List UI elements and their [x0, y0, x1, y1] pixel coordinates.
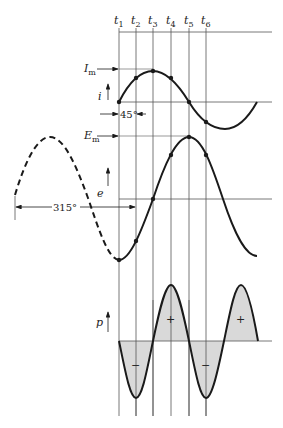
voltage-peak-label: Em [83, 129, 100, 144]
phase-45-label: 45° [120, 109, 138, 120]
voltage-section: Em e 315° [15, 129, 272, 262]
time-label-t6: t6 [201, 14, 211, 29]
power-axis-label: p [96, 316, 103, 329]
power-positive-sign-1: + [166, 313, 175, 326]
voltage-sample-points [117, 135, 208, 262]
time-labels: t1 t2 t3 t4 t5 t6 [114, 14, 211, 29]
current-peak-label: Im [83, 62, 96, 77]
voltage-axis-label: e [97, 187, 104, 200]
time-label-t4: t4 [166, 14, 176, 29]
waveform-diagram: t1 t2 t3 t4 t5 t6 Im i 45° [0, 0, 283, 428]
current-axis-label: i [98, 90, 102, 103]
time-label-t5: t5 [184, 14, 194, 29]
voltage-waveform [119, 137, 257, 260]
time-label-t1: t1 [114, 14, 124, 29]
power-negative-sign-1: − [131, 359, 140, 372]
power-positive-sign-2: + [236, 313, 245, 326]
time-label-t3: t3 [148, 14, 158, 29]
current-waveform [119, 71, 257, 129]
time-label-t2: t2 [131, 14, 141, 29]
power-section: p + + − − [96, 285, 272, 416]
power-negative-sign-2: − [201, 359, 210, 372]
phase-315-label: 315° [53, 202, 77, 213]
current-section: Im i 45° [83, 62, 272, 129]
